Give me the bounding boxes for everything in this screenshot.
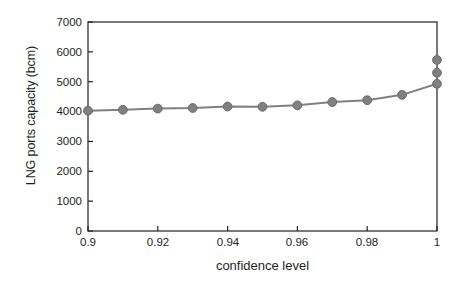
axis-frame	[88, 22, 437, 231]
data-markers	[84, 56, 442, 116]
data-point-marker	[328, 98, 337, 107]
data-point-marker	[188, 104, 197, 113]
data-point-marker	[84, 106, 93, 115]
data-point-marker	[293, 101, 302, 110]
data-point-marker	[258, 102, 267, 111]
chart-figure: LNG ports capacity (bcm) 0 1000 2000 300…	[0, 0, 465, 291]
data-point-marker	[433, 56, 442, 65]
data-point-marker	[119, 105, 128, 114]
data-point-marker	[153, 104, 162, 113]
x-axis-ticks	[88, 226, 437, 231]
data-point-marker	[433, 79, 442, 88]
x-axis-title: confidence level	[88, 258, 437, 273]
data-point-marker	[223, 102, 232, 111]
data-point-marker	[363, 96, 372, 105]
data-point-marker	[433, 68, 442, 77]
y-axis-ticks	[88, 22, 93, 231]
data-point-marker	[398, 90, 407, 99]
plot-area	[0, 0, 465, 291]
